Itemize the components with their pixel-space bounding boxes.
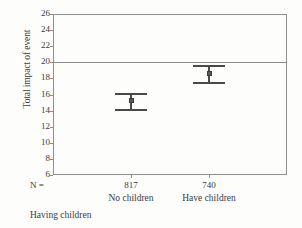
mean-marker: [207, 71, 212, 76]
error-bar-chart-figure: Total impact of event 262422201816141210…: [0, 0, 302, 228]
x-axis-title: Having children: [30, 210, 91, 220]
y-tick-label: 6: [0, 170, 50, 179]
x-category-label-2: Have children: [164, 193, 254, 203]
y-tick-label: 8: [0, 154, 50, 163]
y-tick-label: 18: [0, 73, 50, 82]
error-bar-lower-cap: [193, 82, 225, 84]
n-value-2: 740: [174, 180, 244, 190]
error-bar-lower-cap: [115, 109, 147, 111]
n-value-1: 817: [96, 180, 166, 190]
y-tick-mark: [50, 175, 53, 176]
y-tick-label: 10: [0, 138, 50, 147]
x-tick-mark: [131, 175, 132, 178]
y-tick-label: 20: [0, 57, 50, 66]
plot-area: [53, 14, 287, 175]
y-tick-label: 14: [0, 106, 50, 115]
mean-marker: [129, 98, 134, 103]
y-tick-label: 22: [0, 41, 50, 50]
x-tick-mark: [209, 175, 210, 178]
x-category-label-1: No children: [86, 193, 176, 203]
y-tick-label: 26: [0, 9, 50, 18]
n-equals-label: N =: [30, 180, 44, 190]
reference-line-20: [54, 62, 286, 63]
y-tick-label: 16: [0, 90, 50, 99]
y-tick-label: 24: [0, 25, 50, 34]
y-tick-label: 12: [0, 122, 50, 131]
